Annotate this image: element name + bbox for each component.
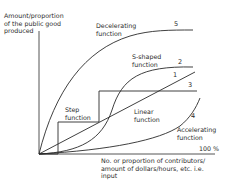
curve-4-number: 4 bbox=[191, 113, 195, 120]
curve-4-accelerating bbox=[39, 98, 200, 154]
x-axis-label-line: input bbox=[101, 172, 205, 180]
curve-1-number: 1 bbox=[173, 72, 177, 79]
x-axis-label: No. or proportion of contributors/ amoun… bbox=[101, 157, 205, 180]
label-line: Step bbox=[65, 106, 91, 114]
label-line: function bbox=[134, 116, 160, 124]
label-line: function bbox=[96, 30, 136, 38]
x-axis-label-line: No. or proportion of contributors/ bbox=[101, 157, 205, 165]
curve-1-linear bbox=[39, 72, 195, 154]
label-line: Accelerating bbox=[177, 126, 216, 134]
label-line: function bbox=[132, 61, 161, 69]
s-shaped-function-label: S-shaped function bbox=[132, 53, 161, 68]
y-axis-label-line: produced bbox=[4, 27, 64, 35]
curve-2-s-shaped bbox=[39, 67, 193, 154]
label-line: Linear bbox=[134, 108, 160, 116]
curve-5-decelerating bbox=[39, 30, 193, 154]
step-function-label: Step function bbox=[65, 106, 91, 121]
y-axis-label-line: Amount/proportion bbox=[4, 12, 64, 20]
label-line: S-shaped bbox=[132, 53, 161, 61]
y-axis-label-line: of the public good bbox=[4, 20, 64, 28]
x-axis-label-line: amount of dollars/hours, etc. i.e. bbox=[101, 165, 205, 173]
curve-5-number: 5 bbox=[174, 21, 178, 28]
label-line: function bbox=[177, 134, 216, 142]
curve-3-step bbox=[39, 91, 197, 154]
curve-2-number: 2 bbox=[178, 59, 182, 66]
y-axis-label: Amount/proportion of the public good pro… bbox=[4, 12, 64, 35]
x-axis-max-label: 100 % bbox=[199, 145, 219, 153]
linear-function-label: Linear function bbox=[134, 108, 160, 123]
decelerating-function-label: Decelerating function bbox=[96, 22, 136, 37]
label-line: function bbox=[65, 114, 91, 122]
curve-3-number: 3 bbox=[188, 82, 192, 89]
label-line: Decelerating bbox=[96, 22, 136, 30]
accelerating-function-label: Accelerating function bbox=[177, 126, 216, 141]
